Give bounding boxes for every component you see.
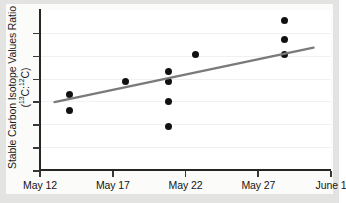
y-axis-tick-2: [33, 124, 40, 126]
y-axis-tick-1: [33, 147, 40, 149]
gridline-y-1: [40, 147, 331, 148]
y-axis-tick-3: [33, 101, 40, 103]
x-axis-tick-label-2: May 22: [169, 179, 203, 191]
gridline-y-2: [40, 124, 331, 125]
data-point: [192, 51, 199, 58]
x-axis-tick-label-1: May 17: [96, 179, 130, 191]
data-point: [66, 91, 73, 98]
gridline-y-3: [40, 101, 331, 102]
x-axis-tick-3: [257, 171, 259, 177]
data-point: [165, 98, 172, 105]
x-axis-tick-4: [330, 171, 332, 177]
y-axis-tick-5: [33, 56, 40, 58]
data-point: [165, 68, 172, 75]
x-axis-tick-label-3: May 27: [241, 179, 275, 191]
x-axis-tick-2: [185, 171, 187, 177]
data-point: [66, 107, 73, 114]
data-point: [165, 123, 172, 130]
data-point: [165, 78, 172, 85]
data-point: [281, 51, 288, 58]
plot-area: [40, 10, 331, 170]
x-axis-tick-label-0: May 12: [23, 179, 57, 191]
x-axis-tick-0: [39, 171, 41, 177]
y-axis-tick-6: [33, 33, 40, 35]
gridline-y-6: [40, 33, 331, 34]
plot-background: [40, 10, 331, 170]
x-axis-tick-label-4: June 1: [316, 179, 346, 191]
gridline-y-4: [40, 79, 331, 80]
y-axis-tick-4: [33, 79, 40, 81]
x-axis-tick-1: [112, 171, 114, 177]
